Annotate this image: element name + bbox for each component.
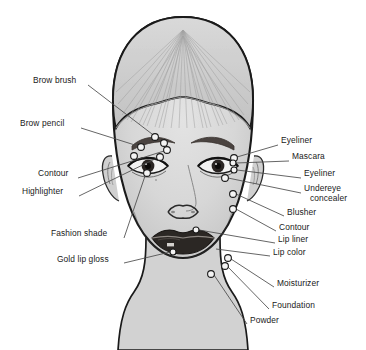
marker-undereye xyxy=(222,175,229,182)
makeup-face-diagram: Brow brush Brow pencil Contour Highlight… xyxy=(0,0,366,350)
marker-blusher xyxy=(230,191,237,198)
marker-mascara xyxy=(230,160,236,166)
label-contour-right: Contour xyxy=(279,222,310,232)
marker-fashion-shade xyxy=(144,170,151,177)
label-undereye: Undereye xyxy=(304,183,341,193)
marker-contour-r xyxy=(230,206,237,213)
marker-foundation xyxy=(222,263,229,270)
marker-highlighter-l xyxy=(157,154,164,161)
marker-lid-inner xyxy=(131,153,138,160)
label-brow-brush: Brow brush xyxy=(33,75,76,85)
marker-brow-pencil xyxy=(138,144,145,151)
label-fashion-shade: Fashion shade xyxy=(51,228,107,238)
marker-moisturizer xyxy=(225,255,232,262)
label-gold-lip-gloss: Gold lip gloss xyxy=(57,254,109,264)
label-blusher: Blusher xyxy=(287,207,316,217)
marker-contour-l xyxy=(164,147,171,154)
marker-lip-color xyxy=(170,249,176,255)
marker-brow-brush xyxy=(152,134,159,141)
label-foundation: Foundation xyxy=(272,300,315,310)
label-brow-pencil: Brow pencil xyxy=(20,118,64,128)
marker-eyeliner-lower xyxy=(231,167,237,173)
label-highlighter: Highlighter xyxy=(22,186,63,196)
label-eyeliner-lower: Eyeliner xyxy=(304,168,335,178)
label-undereye-concealer: concealer xyxy=(310,193,347,203)
ear-left xyxy=(102,156,119,201)
marker-powder xyxy=(208,271,215,278)
marker-lip-liner xyxy=(193,227,199,233)
label-powder: Powder xyxy=(250,315,279,325)
label-lip-liner: Lip liner xyxy=(278,234,308,244)
label-contour-left: Contour xyxy=(38,168,69,178)
label-lip-color: Lip color xyxy=(273,247,306,257)
marker-brow-arch xyxy=(161,140,168,147)
label-eyeliner-upper: Eyeliner xyxy=(281,135,312,145)
label-mascara: Mascara xyxy=(292,151,325,161)
label-moisturizer: Moisturizer xyxy=(277,278,319,288)
